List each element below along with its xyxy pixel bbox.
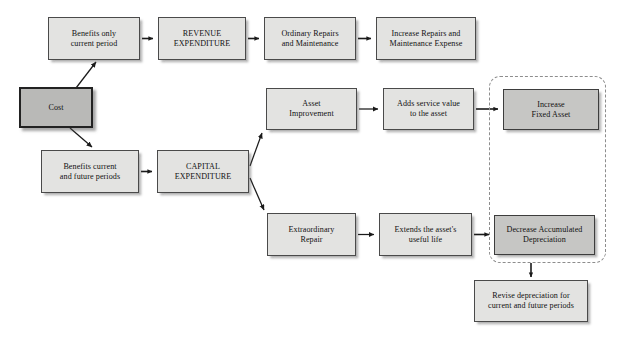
node-increase-repairs[interactable]: Increase Repairs and Maintenance Expense [376,17,476,60]
edge-cost-to-benefits-current [76,62,96,88]
node-benefits-future[interactable]: Benefits current and future periods [41,150,139,193]
edge-capital-to-asset-improve [250,133,262,166]
node-revise-depreciation[interactable]: Revise depreciation for current and futu… [474,280,588,322]
node-benefits-current[interactable]: Benefits only current period [48,17,140,60]
node-capital-expenditure[interactable]: CAPITAL EXPENDITURE [157,150,249,193]
flowchart-canvas: CostBenefits only current periodREVENUE … [0,0,622,337]
node-extraordinary-repair[interactable]: Extraordinary Repair [267,213,356,256]
node-label-decrease-accum-dep: Decrease Accumulated Depreciation [507,225,583,244]
node-label-capital-expenditure: CAPITAL EXPENDITURE [175,162,232,181]
page-caption-fragment [0,0,622,9]
node-asset-improvement[interactable]: Asset Improvement [266,88,357,130]
node-label-revenue-expenditure: REVENUE EXPENDITURE [174,29,231,48]
node-cost[interactable]: Cost [19,87,93,128]
node-label-adds-service-value: Adds service value to the asset [397,99,460,118]
node-revenue-expenditure[interactable]: REVENUE EXPENDITURE [158,17,246,60]
node-extends-useful-life[interactable]: Extends the asset's useful life [379,213,472,256]
node-label-cost: Cost [48,103,63,113]
node-increase-fixed-asset[interactable]: Increase Fixed Asset [503,89,599,130]
node-ordinary-repairs[interactable]: Ordinary Repairs and Maintenance [264,17,356,60]
edge-capital-to-extraordinary [250,178,264,210]
node-label-extraordinary-repair: Extraordinary Repair [289,225,335,244]
node-label-increase-repairs: Increase Repairs and Maintenance Expense [390,29,463,48]
node-label-asset-improvement: Asset Improvement [289,99,333,118]
node-decrease-accum-dep[interactable]: Decrease Accumulated Depreciation [494,215,595,255]
node-label-revise-depreciation: Revise depreciation for current and futu… [488,291,574,310]
edge-cost-to-benefits-future [70,128,92,147]
node-label-benefits-future: Benefits current and future periods [60,162,120,181]
node-adds-service-value[interactable]: Adds service value to the asset [383,88,474,130]
node-label-extends-useful-life: Extends the asset's useful life [395,225,457,244]
node-label-benefits-current: Benefits only current period [71,29,118,48]
node-label-increase-fixed-asset: Increase Fixed Asset [532,100,571,119]
node-label-ordinary-repairs: Ordinary Repairs and Maintenance [281,29,338,48]
